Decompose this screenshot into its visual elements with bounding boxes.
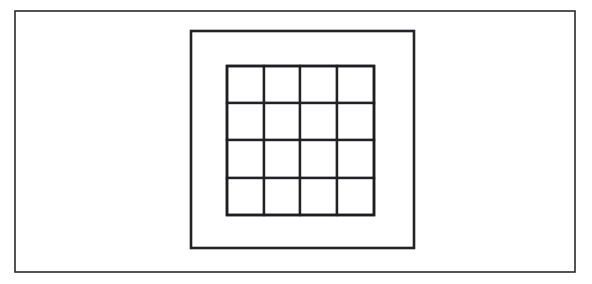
grid-cell-r3-c3 [300,140,337,178]
grid-cell-r2-c2 [264,103,300,140]
grid-cell-r4-c3 [300,178,337,215]
grid-cell-r2-c3 [300,103,337,140]
figure-drawing [0,0,592,284]
grid-cell-r2-c1 [227,103,264,140]
grid-cell-r2-c4 [337,103,374,140]
grid-cell-r1-c2 [264,66,300,103]
figure-canvas [0,0,592,284]
grid-cell-r3-c2 [264,140,300,178]
grid-cell-r1-c4 [337,66,374,103]
grid-cell-r4-c1 [227,178,264,215]
grid-cell-r4-c4 [337,178,374,215]
grid-cell-r1-c1 [227,66,264,103]
grid-cell-r4-c2 [264,178,300,215]
grid-cell-r1-c3 [300,66,337,103]
grid-cell-r3-c1 [227,140,264,178]
inner-grid [227,66,374,215]
grid-cell-r3-c4 [337,140,374,178]
